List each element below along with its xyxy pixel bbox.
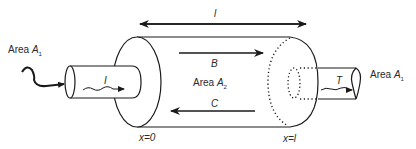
area-a1-right-label: Area A1 (370, 69, 405, 82)
input-wave-lead (22, 67, 64, 86)
x-end-label: x=l (282, 133, 297, 144)
transmitted-wave-arrow (321, 87, 352, 90)
cylinder-diagram: l I T B C Area A2 Area A1 Are (0, 0, 416, 149)
forward-wave-label: B (211, 58, 218, 69)
x-start-label: x=0 (138, 132, 156, 143)
incident-wave-label: I (104, 75, 107, 86)
output-tube (288, 68, 361, 99)
transmitted-wave-label: T (336, 75, 343, 86)
backward-wave-label: C (211, 98, 219, 109)
input-tube (65, 66, 141, 98)
area-a2-label: Area A2 (193, 77, 228, 90)
length-label: l (214, 8, 217, 19)
area-a1-left-label: Area A1 (8, 44, 43, 57)
